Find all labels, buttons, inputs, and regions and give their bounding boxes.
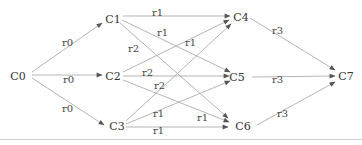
edge-label: r2 bbox=[128, 43, 139, 54]
edge-label: r2 bbox=[154, 80, 165, 91]
edge-c4-c7 bbox=[250, 18, 335, 70]
node-c7: C7 bbox=[338, 70, 353, 83]
edge-label: r1 bbox=[152, 7, 163, 18]
edge-label: r3 bbox=[272, 74, 283, 85]
node-c6: C6 bbox=[235, 120, 250, 133]
edge-label: r0 bbox=[62, 37, 73, 48]
nodes-group: C0C1C2C3C4C5C6C7 bbox=[10, 11, 353, 133]
flow-diagram: r0r0r0r1r1r2r1r2r2r1r1r1r3r3r3 C0C1C2C3C… bbox=[0, 0, 362, 145]
edge-label: r1 bbox=[153, 125, 164, 136]
node-c2: C2 bbox=[105, 70, 120, 83]
edge-label: r3 bbox=[277, 108, 288, 119]
node-c5: C5 bbox=[229, 71, 244, 84]
divider-line bbox=[0, 139, 362, 140]
edge-c6-c7 bbox=[257, 82, 335, 125]
edge-c0-c3 bbox=[32, 78, 104, 125]
node-c4: C4 bbox=[233, 11, 248, 24]
edge-label: r3 bbox=[272, 25, 283, 36]
edge-label: r2 bbox=[142, 67, 153, 78]
edge-c2-c6 bbox=[123, 80, 229, 122]
edge-label: r0 bbox=[63, 74, 74, 85]
edges-group bbox=[32, 16, 335, 127]
edge-label: r1 bbox=[153, 108, 164, 119]
edge-c5-c7 bbox=[252, 76, 335, 77]
edge-label: r1 bbox=[185, 37, 196, 48]
node-c0: C0 bbox=[10, 70, 25, 83]
edge-label: r1 bbox=[197, 112, 208, 123]
edge-label: r1 bbox=[157, 27, 168, 38]
edge-label: r0 bbox=[62, 103, 73, 114]
node-c1: C1 bbox=[105, 13, 120, 26]
node-c3: C3 bbox=[109, 120, 124, 133]
